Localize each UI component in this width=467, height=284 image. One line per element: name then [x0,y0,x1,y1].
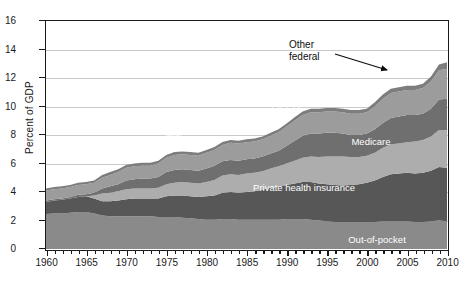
x-tick-label-1985: 1985 [224,257,270,268]
x-tick-mark-1995 [327,251,328,256]
x-tick-mark-1988 [271,251,272,254]
plot-area: Other third-partyState and federal medic… [45,20,449,251]
y-tick-label-6: 6 [0,157,16,168]
x-tick-mark-1961 [55,251,56,254]
x-tick-mark-1993 [311,251,312,254]
other-federal-callout: Other federal [289,39,320,62]
x-tick-mark-1962 [63,251,64,254]
x-tick-mark-1987 [263,251,264,254]
x-tick-mark-2007 [424,251,425,254]
y-tick-label-12: 12 [0,72,16,83]
x-tick-mark-1971 [135,251,136,254]
x-tick-mark-2008 [432,251,433,254]
x-tick-mark-2005 [408,251,409,256]
band-label-out-of-pocket: Out-of-pocket [348,234,406,245]
x-tick-mark-1984 [239,251,240,254]
x-tick-mark-1989 [279,251,280,254]
x-tick-mark-1965 [87,251,88,256]
x-tick-mark-1982 [223,251,224,254]
x-tick-mark-1974 [159,251,160,254]
y-tick-label-10: 10 [0,100,16,111]
x-tick-label-1995: 1995 [304,257,350,268]
x-tick-mark-1991 [295,251,296,254]
x-tick-label-1975: 1975 [144,257,190,268]
x-tick-label-1970: 1970 [104,257,150,268]
band-label-private-health-insurance: Private health insurance [253,182,355,193]
x-tick-mark-1968 [111,251,112,254]
x-tick-mark-1975 [167,251,168,256]
x-tick-mark-1983 [231,251,232,254]
x-tick-mark-1966 [95,251,96,254]
x-tick-mark-1973 [151,251,152,254]
y-tick-label-4: 4 [0,186,16,197]
x-tick-label-2005: 2005 [385,257,431,268]
y-axis-title: Percent of GDP [24,58,35,178]
x-tick-label-2000: 2000 [344,257,390,268]
y-tick-label-2: 2 [0,214,16,225]
x-tick-mark-2009 [440,251,441,254]
x-tick-mark-1967 [103,251,104,254]
y-tick-label-0: 0 [0,243,16,254]
chart-figure: Percent of GDP 0246810121416 Other third… [0,0,467,284]
x-tick-mark-1981 [215,251,216,254]
x-tick-label-1960: 1960 [24,257,70,268]
x-tick-label-2010: 2010 [425,257,467,268]
x-tick-mark-1979 [199,251,200,254]
x-tick-mark-1985 [247,251,248,256]
x-tick-mark-2004 [399,251,400,254]
x-tick-label-1980: 1980 [184,257,230,268]
x-tick-mark-1999 [359,251,360,254]
y-tick-label-8: 8 [0,129,16,140]
x-tick-mark-2000 [367,251,368,256]
x-tick-mark-1978 [191,251,192,254]
x-tick-mark-1997 [343,251,344,254]
x-tick-mark-2003 [391,251,392,254]
band-label-medicare: Medicare [351,136,390,147]
x-tick-mark-1976 [175,251,176,254]
x-tick-mark-1969 [119,251,120,254]
x-tick-mark-1996 [335,251,336,254]
x-tick-mark-1994 [319,251,320,254]
x-tick-label-1990: 1990 [264,257,310,268]
x-tick-mark-1980 [207,251,208,256]
x-tick-label-1965: 1965 [64,257,110,268]
x-tick-mark-2010 [448,251,449,256]
x-tick-mark-1970 [127,251,128,256]
x-tick-mark-1977 [183,251,184,254]
x-tick-mark-2006 [416,251,417,254]
x-tick-mark-1960 [47,251,48,256]
x-tick-mark-1992 [303,251,304,254]
x-tick-mark-1990 [287,251,288,256]
y-tick-label-16: 16 [0,15,16,26]
x-tick-mark-2001 [375,251,376,254]
x-tick-mark-1964 [79,251,80,254]
x-tick-mark-1998 [351,251,352,254]
x-tick-mark-2002 [383,251,384,254]
x-tick-mark-1986 [255,251,256,254]
x-tick-mark-1972 [143,251,144,254]
y-tick-label-14: 14 [0,43,16,54]
x-tick-mark-1963 [71,251,72,254]
